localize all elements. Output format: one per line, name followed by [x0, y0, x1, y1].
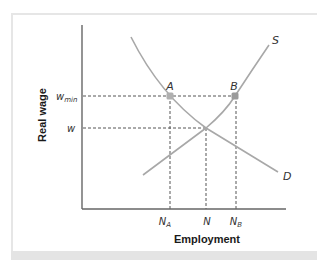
supply-label: S — [272, 34, 279, 47]
nb-label: NB — [230, 216, 242, 229]
na-label: NA — [159, 216, 171, 229]
y-axis-title: Real wage — [36, 88, 48, 142]
point-a-label: A — [165, 80, 174, 93]
wmin-label: wmin — [56, 91, 77, 104]
n-label: N — [203, 216, 211, 227]
point-a-marker — [167, 93, 174, 100]
x-axis-title: Employment — [174, 233, 240, 245]
demand-curve — [131, 37, 278, 172]
point-b-label: B — [230, 80, 238, 93]
labor-market-chart: A B S D wmin w NA N NB Employment Real w… — [0, 0, 317, 260]
point-b-marker — [232, 93, 239, 100]
w-label: w — [67, 123, 76, 134]
guide-lines — [83, 96, 236, 209]
demand-label: D — [283, 170, 291, 183]
